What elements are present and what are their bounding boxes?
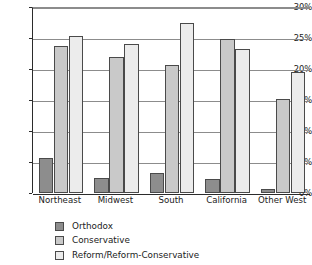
bar-midwest-series-1 — [109, 57, 124, 193]
bar-midwest-series-0 — [94, 178, 109, 193]
bar-northeast-series-2 — [69, 36, 84, 193]
bar-northeast-series-1 — [54, 46, 69, 193]
chart-legend: OrthodoxConservativeReform/Reform-Conser… — [55, 219, 305, 263]
bar-california-series-0 — [205, 179, 220, 193]
x-tick-label-northeast: Northeast — [32, 196, 88, 205]
legend-item-conservative: Conservative — [55, 234, 305, 249]
bar-south-series-1 — [165, 65, 180, 193]
legend-item-orthodox: Orthodox — [55, 219, 305, 234]
legend-label: Conservative — [72, 236, 130, 245]
bar-california-series-2 — [235, 49, 250, 193]
bar-midwest-series-2 — [124, 44, 139, 193]
bar-other-west-series-0 — [261, 189, 276, 193]
bar-california-series-1 — [220, 39, 235, 193]
x-tick-label-midwest: Midwest — [88, 196, 144, 205]
bar-northeast-series-0 — [39, 158, 54, 193]
legend-label: Orthodox — [72, 222, 113, 231]
legend-swatch-icon — [55, 222, 64, 231]
bar-other-west-series-2 — [291, 72, 306, 193]
plot-area — [32, 7, 310, 193]
bar-other-west-series-1 — [276, 99, 291, 193]
legend-item-reform-reform-conservative: Reform/Reform-Conservative — [55, 248, 305, 263]
x-tick-label-south: South — [143, 196, 199, 205]
legend-label: Reform/Reform-Conservative — [72, 251, 199, 260]
bar-south-series-0 — [150, 173, 165, 193]
bar-chart-figure: 0%5%10%15%20%25%30% NortheastMidwestSout… — [0, 0, 312, 265]
bar-south-series-2 — [180, 23, 195, 193]
x-tick-label-california: California — [199, 196, 255, 205]
gridline-30 — [33, 8, 310, 9]
legend-swatch-icon — [55, 236, 64, 245]
x-tick-label-other-west: Other West — [254, 196, 310, 205]
legend-swatch-icon — [55, 251, 64, 260]
y-tick-mark — [29, 193, 32, 194]
